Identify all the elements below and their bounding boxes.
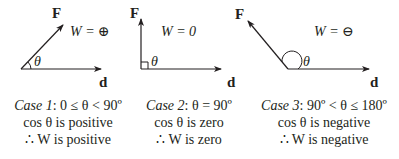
case3-condition: Case 3: 90º < θ ≤ 180º bbox=[254, 97, 394, 114]
case3-displacement-label: d bbox=[370, 74, 379, 90]
case2-caption: Case 2: θ = 90º cos θ is zero ∴ W is zer… bbox=[119, 97, 259, 148]
case1-title: Case 1 bbox=[14, 98, 53, 113]
case2-work-label: W = 0 bbox=[161, 24, 196, 39]
case2-force-label: F bbox=[130, 5, 139, 21]
case2-cos: cos θ is zero bbox=[119, 114, 259, 131]
case1-caption: Case 1: 0 ≤ θ < 90º cos θ is positive ∴ … bbox=[0, 97, 138, 148]
case1-force-arrow bbox=[21, 25, 63, 69]
case2-displacement-label: d bbox=[227, 74, 236, 90]
case1-condition: Case 1: 0 ≤ θ < 90º bbox=[0, 97, 138, 114]
case1-displacement-label: d bbox=[99, 74, 108, 90]
case2-work: ∴ W is zero bbox=[119, 131, 259, 148]
case3-title: Case 3 bbox=[261, 98, 300, 113]
case3-work-label: W = ⊖ bbox=[314, 24, 354, 39]
case2-angle-label: θ bbox=[151, 54, 158, 69]
case1-work-label: W = ⊕ bbox=[70, 24, 110, 39]
case1-cos: cos θ is positive bbox=[0, 114, 138, 131]
case2-right-angle-marker bbox=[141, 62, 148, 69]
case1-work: ∴ W is positive bbox=[0, 131, 138, 148]
case3-force-label: F bbox=[235, 6, 244, 22]
case2-condition: Case 2: θ = 90º bbox=[119, 97, 259, 114]
case2-title: Case 2 bbox=[146, 98, 185, 113]
case1-angle-label: θ bbox=[34, 54, 41, 69]
case3-caption: Case 3: 90º < θ ≤ 180º cos θ is negative… bbox=[254, 97, 394, 148]
case3-work: ∴ W is negative bbox=[254, 131, 394, 148]
case3-angle-arc bbox=[282, 51, 302, 69]
case3-angle-label: θ bbox=[303, 54, 310, 69]
case1-force-label: F bbox=[52, 5, 61, 21]
case1-angle-arc bbox=[28, 62, 31, 69]
case3-cos: cos θ is negative bbox=[254, 114, 394, 131]
